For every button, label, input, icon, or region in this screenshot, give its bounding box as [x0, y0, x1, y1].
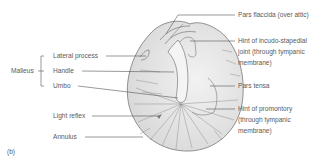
label-promontory-2: (through tympanic — [238, 115, 291, 126]
label-incudo-stapedial-3: membrane) — [238, 58, 272, 69]
label-handle: Handle — [53, 66, 74, 77]
label-pars-tensa: Pars tensa — [238, 81, 270, 92]
malleus-bracket — [38, 56, 44, 86]
label-light-reflex: Light reflex — [53, 111, 85, 122]
tympanic-membrane-diagram — [0, 0, 332, 163]
malleus-group-label: Malleus — [11, 66, 34, 77]
label-promontory-3: membrane) — [238, 126, 272, 137]
label-promontory-1: Hint of promontory — [238, 104, 292, 115]
figure-label: (b) — [7, 147, 15, 158]
label-annulus: Annulus — [53, 132, 77, 143]
label-incudo-stapedial-1: Hint of incudo-stapedial — [238, 36, 307, 47]
label-lateral-process: Lateral process — [53, 51, 98, 62]
label-pars-flaccida: Pars flaccida (over attic) — [238, 10, 309, 21]
label-incudo-stapedial-2: joint (through tympanic — [238, 47, 305, 58]
label-umbo: Umbo — [53, 81, 71, 92]
